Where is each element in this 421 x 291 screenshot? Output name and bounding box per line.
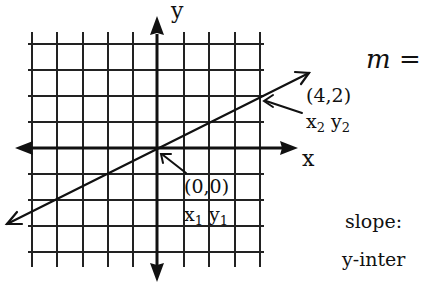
y2-subscript: 2 [342,120,350,135]
slope-label: slope: [345,212,402,231]
y-intercept-label: y-inter [342,250,405,269]
y2-var: y [331,110,342,132]
x-axis-label: x [302,148,314,170]
y-axis-label: y [171,0,183,22]
x2-var: x [306,110,317,132]
point-vars-x2-y2: x2 y2 [306,112,350,134]
point-label-0-0: (0,0) [184,177,229,196]
slope-formula: m = [366,46,421,72]
x1-subscript: 1 [195,213,203,228]
point-label-4-2: (4,2) [306,86,351,105]
y1-var: y [209,203,220,225]
x1-var: x [184,203,195,225]
x2-subscript: 2 [317,120,325,135]
y1-subscript: 1 [220,213,228,228]
point-vars-x1-y1: x1 y1 [184,205,228,227]
pointer-arrows [161,95,302,173]
